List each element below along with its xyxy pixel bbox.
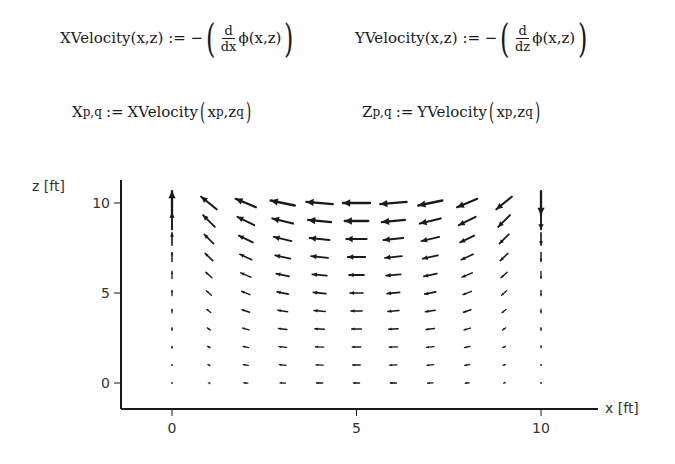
velocity-arrow [171,346,173,348]
velocity-arrow [390,382,396,384]
velocity-arrow [201,197,216,210]
velocity-arrow [500,253,508,260]
velocity-arrow [279,327,287,330]
y-tick-label: 5 [101,285,110,301]
velocity-arrow [237,217,254,225]
velocity-arrow [427,364,434,366]
velocity-arrow [428,382,434,384]
velocity-arrow [317,382,323,384]
velocity-arrow [464,328,470,330]
velocity-arrow [499,234,508,243]
velocity-arrow [279,364,286,366]
velocity-arrow [171,290,173,295]
velocity-arrow [425,310,435,313]
velocity-arrow [463,291,471,295]
velocity-arrow [426,328,434,331]
velocity-arrow [384,236,404,242]
velocity-arrow [171,382,173,384]
velocity-arrow [496,197,511,210]
velocity-arrow [168,191,175,215]
velocity-arrow [540,382,542,384]
plot-axes: 05100510 [92,180,598,436]
velocity-arrow [207,309,211,312]
velocity-arrow [537,191,544,215]
velocity-arrow [498,215,510,227]
velocity-arrow [382,218,405,225]
velocity-arrow [171,252,174,261]
velocity-arrow [389,328,399,331]
velocity-arrow [350,291,363,295]
velocity-arrow [272,217,293,224]
velocity-arrow [208,346,211,348]
velocity-arrow [315,327,325,330]
velocity-arrow [171,309,173,313]
velocity-arrow [464,346,470,348]
velocity-arrow [171,272,173,279]
velocity-arrow [421,237,439,243]
velocity-arrow [349,273,364,278]
velocity-arrow [242,309,250,312]
velocity-arrow [308,217,331,224]
velocity-arrow [241,273,251,277]
velocity-arrow [240,254,252,260]
velocity-arrow [310,236,330,242]
x-axis-label: x [ft] [605,400,639,416]
velocity-arrow [206,272,212,278]
velocity-arrow [311,254,328,259]
velocity-arrow [380,200,406,207]
velocity-arrow [385,255,402,260]
velocity-arrow [540,364,542,366]
velocity-arrow [540,346,542,348]
velocity-arrow [351,309,362,313]
velocity-arrow [501,272,507,278]
velocity-arrow [171,364,173,366]
velocity-arrow [423,255,438,260]
velocity-arrow [243,328,249,330]
velocity-arrow [463,310,471,313]
velocity-arrow [244,382,248,384]
velocity-arrow [465,382,469,384]
velocity-arrow [348,254,365,260]
velocity-arrow [352,327,362,330]
velocity-arrow [425,292,436,296]
y-axis-label: z [ft] [32,178,65,194]
velocity-arrow [540,252,543,261]
velocity-arrow [461,254,473,260]
velocity-arrow [275,254,290,259]
velocity-arrow [540,272,542,279]
velocity-arrow [207,328,210,331]
velocity-arrow [503,381,505,383]
velocity-arrow [503,364,505,366]
velocity-arrow [313,291,326,295]
velocity-arrow [420,218,441,225]
velocity-arrow [418,200,442,207]
velocity-arrow [243,346,249,348]
velocity-arrow [315,346,323,349]
velocity-arrow [306,199,332,206]
velocity-arrow [540,328,542,331]
velocity-arrow [312,272,327,277]
velocity-arrow [279,346,287,348]
y-tick-label: 10 [92,195,110,211]
velocity-arrow [346,236,366,242]
velocity-arrow [503,346,506,348]
velocity-arrow [387,291,400,295]
velocity-arrow [502,309,506,312]
velocity-arrow [274,235,292,241]
velocity-arrow [424,273,437,277]
velocity-arrow [353,382,359,384]
velocity-arrow [343,199,370,206]
velocity-arrow [314,309,325,313]
velocity-arrow [316,364,323,366]
velocity-arrow [352,346,360,349]
velocity-arrow [276,272,289,276]
velocity-quiver-plot: 05100510 [0,0,675,464]
velocity-arrow [353,364,361,366]
y-tick-label: 0 [101,375,110,391]
x-tick-label: 5 [352,420,361,436]
velocity-arrow [540,309,542,313]
x-tick-label: 0 [168,420,177,436]
velocity-arrow [539,233,543,245]
velocity-arrow [242,291,250,295]
velocity-arrow [460,236,474,243]
